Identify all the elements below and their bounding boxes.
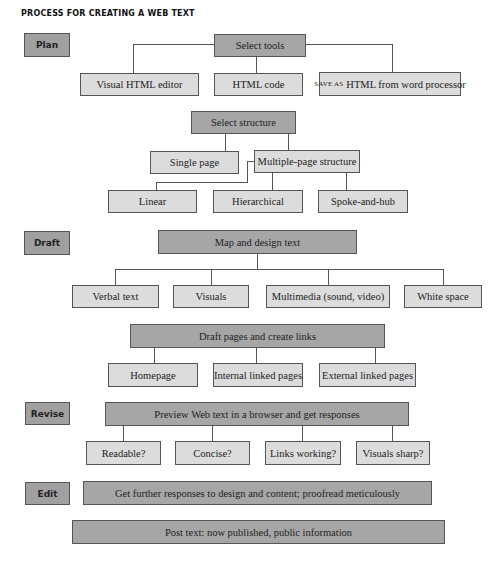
- connector: [328, 269, 329, 285]
- stage-edit: Edit: [25, 482, 70, 505]
- save-as-label: SAVE AS: [314, 80, 343, 88]
- connector: [256, 57, 257, 73]
- connector: [247, 161, 248, 182]
- stage-revise: Revise: [25, 402, 70, 425]
- structure-multiple-page-box: Multiple-page structure: [254, 150, 360, 173]
- structure-spoke-hub-box: Spoke-and-hub: [318, 190, 408, 213]
- check-concise-box: Concise?: [175, 441, 250, 465]
- connector: [272, 173, 273, 190]
- check-links-box: Links working?: [265, 441, 341, 465]
- page-internal-box: Internal linked pages: [213, 363, 303, 387]
- structure-hierarchical-box: Hierarchical: [213, 190, 303, 213]
- select-structure-box: Select structure: [191, 111, 296, 134]
- element-verbal-text-box: Verbal text: [72, 285, 159, 308]
- connector: [133, 44, 134, 73]
- element-visuals-box: Visuals: [173, 285, 249, 308]
- preview-box: Preview Web text in a browser and get re…: [105, 402, 409, 426]
- connector: [256, 347, 257, 364]
- connector: [257, 253, 258, 269]
- connector: [115, 269, 116, 285]
- save-as-rest: HTML from word processor: [346, 79, 465, 90]
- check-readable-box: Readable?: [86, 441, 161, 465]
- page-homepage-box: Homepage: [108, 363, 198, 387]
- edit-further-box: Get further responses to design and cont…: [83, 481, 432, 505]
- connector: [392, 44, 393, 73]
- connector: [212, 425, 213, 442]
- check-visuals-box: Visuals sharp?: [356, 441, 430, 465]
- tool-visual-editor-box: Visual HTML editor: [80, 73, 199, 96]
- tool-save-as-box: SAVE AS HTML from word processor: [319, 72, 461, 96]
- structure-single-page-box: Single page: [150, 151, 239, 174]
- connector: [156, 182, 157, 190]
- connector: [375, 347, 376, 364]
- connector: [156, 182, 248, 183]
- connector: [306, 44, 392, 45]
- connector: [211, 269, 212, 285]
- connector: [346, 173, 347, 190]
- connector: [123, 425, 124, 442]
- connector: [115, 269, 444, 270]
- connector: [154, 347, 155, 364]
- draft-pages-box: Draft pages and create links: [130, 324, 385, 348]
- diagram-title: PROCESS FOR CREATING A WEB TEXT: [21, 9, 195, 18]
- connector: [392, 425, 393, 442]
- post-text-box: Post text: now published, public informa…: [72, 520, 445, 544]
- connector: [225, 134, 226, 151]
- structure-linear-box: Linear: [108, 190, 197, 213]
- connector: [443, 269, 444, 285]
- page-external-box: External linked pages: [319, 363, 416, 387]
- tool-html-code-box: HTML code: [214, 73, 303, 96]
- connector: [288, 134, 289, 151]
- connector: [133, 44, 214, 45]
- map-design-box: Map and design text: [158, 230, 357, 254]
- element-white-space-box: White space: [404, 285, 482, 308]
- connector: [302, 425, 303, 442]
- stage-plan: Plan: [24, 33, 70, 57]
- stage-draft: Draft: [24, 231, 70, 255]
- select-tools-box: Select tools: [214, 34, 306, 57]
- element-multimedia-box: Multimedia (sound, video): [266, 285, 390, 308]
